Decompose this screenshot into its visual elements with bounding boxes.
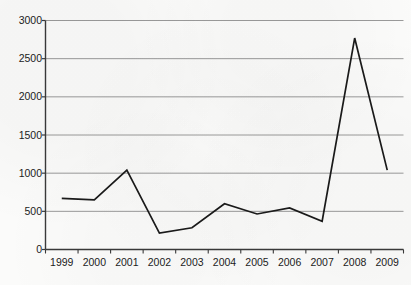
x-axis-tick-labels: 1999200020012002200320042005200620072008… [0,0,411,285]
x-tick-label: 2009 [367,257,407,268]
line-chart-figure: 050010001500200025003000 199920002001200… [0,0,411,285]
